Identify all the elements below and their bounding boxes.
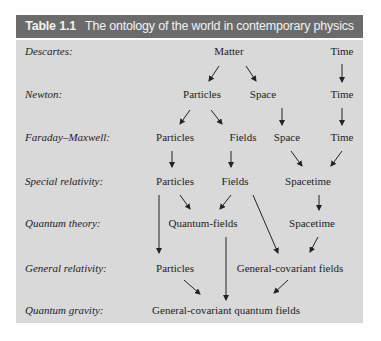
arrows-diagram: [0, 0, 381, 341]
